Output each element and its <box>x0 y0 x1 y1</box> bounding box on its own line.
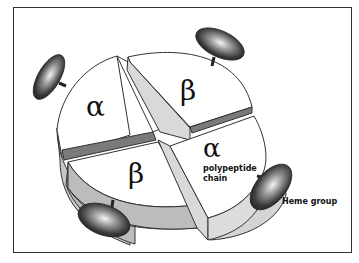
label-alpha-top-left: α <box>86 90 105 123</box>
label-beta-bottom-left: β <box>128 157 144 190</box>
heme-group-top-left <box>27 50 71 104</box>
hemoglobin-diagram: α β β α polypeptide chain Heme group <box>0 0 359 263</box>
label-alpha-bottom-right: α <box>203 133 221 163</box>
label-heme-group: Heme group <box>282 197 338 206</box>
label-beta-top-right: β <box>180 74 196 107</box>
label-polypeptide-line2: chain <box>203 174 228 183</box>
label-polypeptide-line1: polypeptide <box>203 164 257 173</box>
